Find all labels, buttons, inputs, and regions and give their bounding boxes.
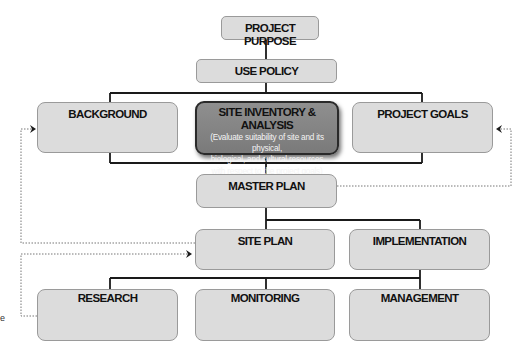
site-inventory-description-line-1: (Evaluate suitability of site and its ph… — [197, 133, 337, 154]
use-policy-label: USE POLICY — [197, 65, 336, 78]
background-node: BACKGROUND — [37, 102, 178, 153]
cropped-text-fragment: e — [0, 313, 5, 323]
monitoring-node: MONITORING — [195, 289, 335, 341]
implementation-label: IMPLEMENTATION — [350, 235, 489, 248]
project-goals-label: PROJECT GOALS — [353, 108, 492, 121]
site-inventory-analysis-node: SITE INVENTORY & ANALYSIS (Evaluate suit… — [195, 101, 339, 155]
project-purpose-node: PROJECT PURPOSE — [221, 16, 319, 40]
master-plan-label: MASTER PLAN — [197, 180, 336, 193]
use-policy-node: USE POLICY — [196, 59, 337, 83]
implementation-node: IMPLEMENTATION — [349, 229, 490, 270]
site-inventory-label: SITE INVENTORY & ANALYSIS — [197, 106, 337, 132]
master-plan-node: MASTER PLAN — [196, 174, 337, 208]
research-label: RESEARCH — [38, 292, 177, 305]
site-plan-label: SITE PLAN — [196, 235, 334, 248]
project-goals-node: PROJECT GOALS — [352, 102, 493, 153]
site-plan-node: SITE PLAN — [195, 229, 335, 270]
management-node: MANAGEMENT — [349, 289, 490, 341]
management-label: MANAGEMENT — [350, 292, 489, 305]
site-inventory-description-line-2: biological, and cultural resources — [197, 155, 337, 166]
background-label: BACKGROUND — [38, 108, 177, 121]
project-purpose-label: PROJECT PURPOSE — [222, 22, 318, 48]
research-node: RESEARCH — [37, 289, 178, 341]
monitoring-label: MONITORING — [196, 292, 334, 305]
